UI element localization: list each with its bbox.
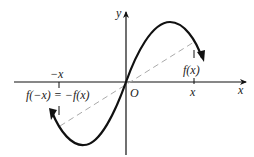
function-curve: [52, 22, 202, 145]
pos-x-label: x: [189, 85, 196, 99]
f-x-label: f(x): [183, 63, 200, 77]
neg-x-label: −x: [50, 67, 64, 81]
y-axis-label: y: [115, 6, 122, 20]
origin-label: O: [130, 86, 139, 100]
x-axis-label: x: [237, 83, 244, 97]
odd-function-diagram: y x O x −x f(x) f(−x) = −f(x): [0, 0, 254, 157]
f-neg-x-label: f(−x) = −f(x): [26, 88, 90, 102]
curve-arrow-right-icon: [197, 50, 205, 62]
dashed-secant-line: [60, 42, 194, 126]
